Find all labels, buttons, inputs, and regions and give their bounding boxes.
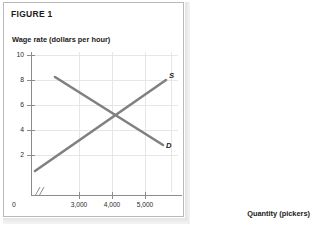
demand-curve-label: D [166, 141, 171, 150]
supply-curve-label: S [169, 71, 174, 80]
supply-demand-curves [0, 0, 190, 228]
demand-curve [55, 77, 163, 145]
supply-curve [35, 80, 166, 171]
